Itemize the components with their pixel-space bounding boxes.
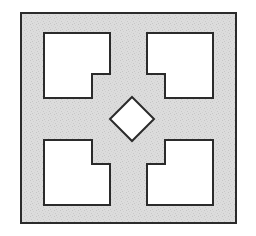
figure-svg (0, 0, 256, 236)
figure-container (0, 0, 256, 236)
